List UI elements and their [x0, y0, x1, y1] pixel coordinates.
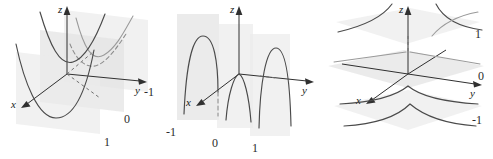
plane-label-y-0: 0 — [212, 136, 218, 150]
plane-y-1 — [250, 34, 290, 136]
z-axis-label: z — [398, 3, 404, 15]
panel-traces-x-planes: z y x -1 0 1 — [0, 0, 160, 159]
y-axis-label: y — [469, 87, 475, 99]
figure-root: z y x -1 0 1 — [0, 0, 493, 159]
plane-front — [16, 52, 100, 134]
plane-label-back: -1 — [144, 85, 154, 99]
plane-label-y-1: 1 — [252, 141, 258, 155]
plane-label-middle: 0 — [124, 112, 130, 126]
panel-level-curves: z y x 1 0 -1 — [320, 0, 493, 159]
plane-label-z-0: 0 — [478, 69, 484, 83]
plane-label-y-neg1: -1 — [166, 125, 176, 139]
panel-traces-x-svg: z y x -1 0 1 — [0, 0, 160, 159]
plane-label-z-1: 1 — [475, 27, 481, 41]
x-axis-label: x — [10, 98, 16, 110]
z-axis-label: z — [57, 3, 63, 15]
plane-label-front: 1 — [104, 135, 110, 149]
panel-traces-y-planes: z y x -1 0 1 — [160, 0, 320, 159]
panel-traces-y-svg: z y x -1 0 1 — [160, 0, 320, 159]
y-axis-label: y — [134, 84, 140, 96]
plane-y-0 — [217, 24, 253, 128]
z-axis-label: z — [229, 3, 235, 15]
x-axis-label: x — [185, 96, 191, 108]
z-axis-arrow — [236, 6, 243, 15]
y-axis-label: y — [301, 84, 307, 96]
panel-levels-svg: z y x 1 0 -1 — [320, 0, 493, 159]
x-axis-label: x — [355, 94, 361, 106]
plane-label-z-neg1: -1 — [472, 113, 482, 127]
